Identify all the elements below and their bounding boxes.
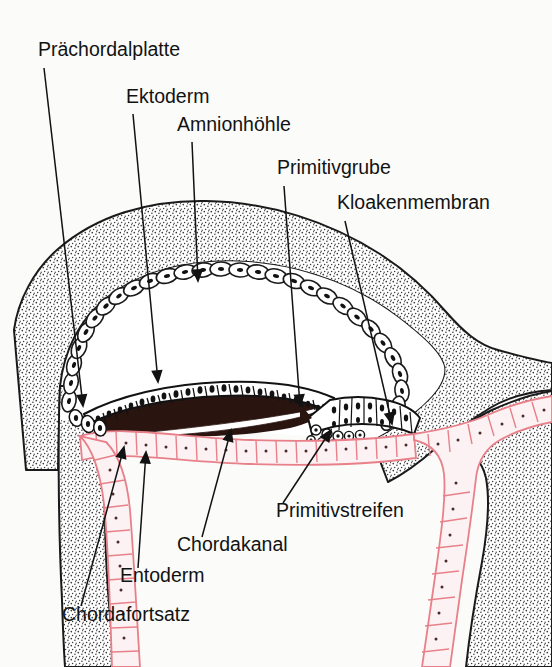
label-praechordalplatte: Prächordalplatte [38, 38, 180, 60]
label-chordakanal: Chordakanal [177, 533, 288, 555]
figure-page: PrächordalplatteEktodermAmnionhöhlePrimi… [0, 0, 552, 667]
label-primitivgrube: Primitivgrube [277, 156, 391, 178]
label-kloakenmembran: Kloakenmembran [337, 191, 490, 213]
leader-line-entoderm [138, 461, 145, 568]
label-primitivstreifen: Primitivstreifen [276, 499, 404, 521]
embryo-section-diagram: PrächordalplatteEktodermAmnionhöhlePrimi… [0, 0, 552, 667]
label-entoderm: Entoderm [120, 564, 205, 586]
label-amnionhoehle: Amnionhöhle [177, 113, 291, 135]
label-chordafortsatz: Chordafortsatz [62, 603, 190, 625]
label-ektoderm: Ektoderm [126, 85, 209, 107]
